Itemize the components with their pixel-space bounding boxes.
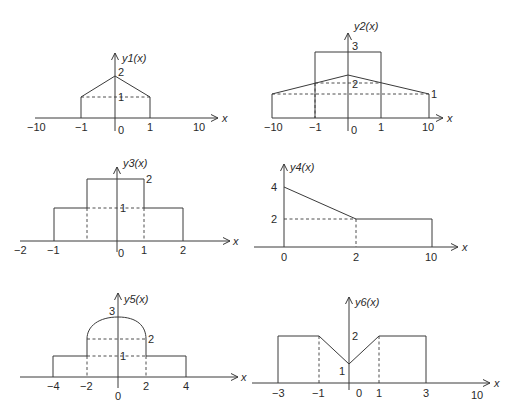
y-tick-1: 1 — [431, 88, 437, 100]
x-tick: 2 — [143, 380, 149, 392]
x-tick: 4 — [183, 380, 189, 392]
x-axis-label: x — [240, 371, 247, 383]
x-axis-label: x — [493, 377, 500, 389]
x-tick: 0 — [118, 247, 124, 259]
plot-y6: y6(x) 2 1 x −3 −1 0 1 3 10 — [252, 296, 500, 401]
x-tick: 0 — [118, 124, 124, 136]
y-tick-1: 1 — [339, 365, 345, 377]
plot-title: y4(x) — [289, 161, 315, 173]
x-tick: 1 — [141, 244, 147, 256]
plot-title: y1(x) — [121, 52, 147, 64]
x-axis-label: x — [232, 235, 239, 247]
y-tick-4: 4 — [271, 181, 277, 193]
x-tick: −2 — [14, 244, 27, 256]
y4-curve — [284, 187, 432, 247]
x-tick: −1 — [309, 121, 322, 133]
x-tick: −1 — [47, 244, 60, 256]
y-tick-2: 2 — [148, 333, 154, 345]
y-tick-2: 2 — [146, 173, 152, 185]
y-tick-2: 2 — [271, 213, 277, 225]
y6-curve — [278, 336, 426, 383]
y-tick-2: 2 — [118, 66, 124, 78]
x-tick: 10 — [425, 251, 437, 263]
y-tick-2: 2 — [352, 78, 358, 90]
x-tick: −10 — [27, 121, 46, 133]
plot-y5: y5(x) 3 2 1 x −4 −2 0 2 4 — [20, 293, 247, 402]
x-tick: 0 — [281, 251, 287, 263]
plot-title: y5(x) — [123, 293, 149, 305]
y-tick-2: 2 — [352, 330, 358, 342]
x-tick: 2 — [180, 244, 186, 256]
plot-y3: y3(x) 2 1 x −2 −1 0 1 2 — [14, 157, 239, 259]
x-tick: 1 — [378, 121, 384, 133]
x-tick: 0 — [115, 390, 121, 402]
x-axis-label: x — [221, 112, 228, 124]
x-tick: 1 — [376, 387, 382, 399]
plot-title: y6(x) — [354, 296, 380, 308]
x-tick: −3 — [272, 387, 285, 399]
x-tick: 2 — [353, 251, 359, 263]
x-tick: −1 — [75, 121, 88, 133]
y3-curve — [54, 179, 183, 241]
y-tick-3: 3 — [352, 40, 358, 52]
x-axis-label: x — [446, 112, 453, 124]
x-tick: −1 — [312, 387, 325, 399]
x-tick: 0 — [351, 124, 357, 136]
plot-title: y2(x) — [353, 20, 379, 32]
x-tick: 10 — [471, 389, 483, 401]
x-axis-label: x — [461, 241, 468, 253]
plot-title: y3(x) — [122, 157, 148, 169]
y2-trapezoid — [272, 75, 429, 118]
x-tick: −4 — [47, 380, 60, 392]
plot-y2: y2(x) 3 2 1 x −10 −1 0 1 10 — [264, 20, 453, 136]
x-tick: 0 — [356, 387, 362, 399]
x-tick: −10 — [264, 121, 283, 133]
x-tick: 10 — [422, 121, 434, 133]
y-tick-1: 1 — [120, 350, 126, 362]
plot-y4: y4(x) 4 2 x 0 2 10 — [254, 161, 468, 263]
x-tick: −2 — [80, 380, 93, 392]
plot-y1: y1(x) 2 1 x −10 −1 0 1 10 — [27, 52, 228, 136]
y5-curve — [53, 317, 186, 377]
function-plots-figure: y1(x) 2 1 x −10 −1 0 1 10 y2(x) 3 2 1 x … — [0, 0, 509, 412]
y-tick-1: 1 — [120, 202, 126, 214]
x-tick: 3 — [423, 387, 429, 399]
y-tick-1: 1 — [118, 91, 124, 103]
y-tick-3: 3 — [109, 305, 115, 317]
x-tick: 1 — [147, 121, 153, 133]
x-tick: 10 — [193, 121, 205, 133]
